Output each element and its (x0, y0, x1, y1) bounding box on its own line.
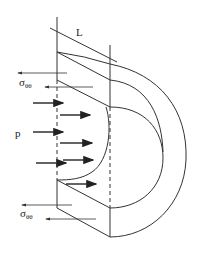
top-face-outer-edge (57, 52, 110, 80)
stress-label-bottom: σθθ (20, 207, 33, 221)
outer-arc-upper-join (110, 80, 163, 152)
bottom-face-outer-edge (57, 208, 110, 237)
stress-label-top: σθθ (19, 76, 32, 90)
pressure-vessel-diagram: L p σθθ σθθ (0, 0, 198, 255)
top-face-inner-edge (57, 80, 110, 107)
top-outer-curve (57, 52, 110, 64)
pressure-label: p (15, 127, 21, 139)
length-label: L (76, 26, 83, 38)
inner-arc (110, 107, 163, 208)
outer-arc (110, 64, 186, 237)
